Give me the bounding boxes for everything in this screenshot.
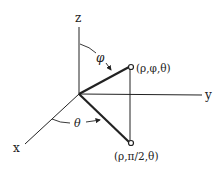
- z-axis-label: z: [75, 11, 81, 25]
- upper-point-label: (ρ,φ,θ): [136, 62, 171, 74]
- rho-vector-upper: [79, 67, 129, 94]
- point-lower: [129, 141, 134, 146]
- theta-arc: [52, 119, 70, 123]
- theta-label: θ: [74, 117, 81, 130]
- lower-point-label: (ρ,π/2,θ): [114, 150, 158, 162]
- phi-arrow: [106, 63, 111, 70]
- spherical-coordinates-diagram: z y x φ θ (ρ,φ,θ) (ρ,π/2,θ): [0, 0, 222, 172]
- phi-arc: [80, 44, 96, 53]
- rho-vector-lower: [79, 94, 129, 142]
- x-axis-label: x: [13, 141, 20, 155]
- y-axis: [79, 94, 202, 95]
- diagram-canvas: z y x φ θ (ρ,φ,θ) (ρ,π/2,θ): [0, 0, 222, 172]
- phi-label: φ: [96, 51, 105, 65]
- point-upper: [129, 65, 134, 70]
- y-axis-label: y: [204, 88, 212, 102]
- theta-arrow: [86, 120, 100, 122]
